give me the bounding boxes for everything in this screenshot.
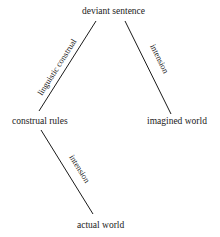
edge-label-linguistic-construal: linguistic construal — [35, 36, 79, 97]
edge-label-intension-1: intension — [148, 42, 171, 75]
diagram-edges: linguistic construal intension intension — [0, 0, 220, 237]
edge-linguistic-construal — [39, 21, 96, 111]
edge-label-intension-2: intension — [67, 153, 92, 185]
